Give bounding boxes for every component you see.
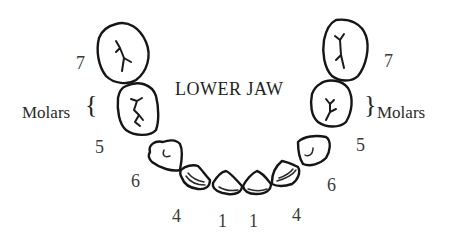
tooth-label-right-1: 1 [249,212,258,230]
tooth-label-left-7: 7 [76,54,85,72]
brace-right: } [364,92,376,118]
group-label-left-molars: Molars [22,104,70,121]
tooth-label-left-5: 5 [95,138,104,156]
jaw-title: LOWER JAW [175,80,284,98]
tooth-left-4 [180,165,210,189]
tooth-right-4 [272,161,299,186]
tooth-label-left-1: 1 [218,212,227,230]
tooth-left-1 [213,171,242,194]
tooth-right-5 [311,81,352,127]
tooth-label-left-4: 4 [172,207,181,225]
tooth-right-6 [298,136,330,165]
tooth-label-right-6: 6 [327,176,336,194]
tooth-label-right-4: 4 [292,206,301,224]
lower-jaw-diagram: LOWER JAW 7 Molars { 5 6 4 1 1 4 6 5 } M… [0,0,454,233]
tooth-left-7 [98,23,149,83]
tooth-label-right-5: 5 [356,136,365,154]
tooth-left-6 [149,140,182,170]
tooth-left-5 [118,83,158,135]
tooth-right-7 [323,20,367,81]
group-label-right-molars: Molars [377,104,425,121]
tooth-label-left-6: 6 [131,172,140,190]
tooth-label-right-7: 7 [384,52,393,70]
brace-left: { [85,92,97,118]
tooth-right-1 [243,171,271,194]
